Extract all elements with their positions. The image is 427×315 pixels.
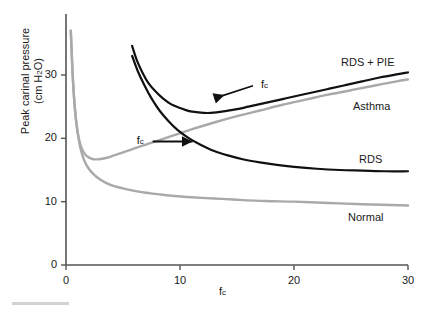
arrow-fc-upper bbox=[214, 86, 253, 99]
x-tick-label: 10 bbox=[165, 274, 195, 286]
x-axis-title: fc bbox=[219, 285, 226, 297]
x-axis-title-subscript: c bbox=[222, 288, 226, 297]
series-label-asthma: Asthma bbox=[353, 100, 390, 112]
annotation-fc-lower-subscript: c bbox=[140, 137, 144, 146]
x-tick-label: 0 bbox=[51, 274, 81, 286]
axis-lines bbox=[61, 14, 408, 270]
y-tick-label: 10 bbox=[35, 195, 57, 207]
y-tick-label: 0 bbox=[35, 258, 57, 270]
series-line-asthma bbox=[71, 31, 408, 160]
y-axis-title-line1: Peak carinal pressure bbox=[19, 1, 32, 161]
series-label-rds-pie: RDS + PIE bbox=[341, 56, 395, 68]
y-tick-label: 20 bbox=[35, 131, 57, 143]
annotation-fc-upper-subscript: c bbox=[264, 81, 268, 90]
annotation-fc-upper: fc bbox=[261, 78, 268, 90]
figure-container: Peak carinal pressure (cm H2O) fc 010203… bbox=[0, 0, 427, 315]
y-tick-label: 30 bbox=[35, 68, 57, 80]
series-label-rds: RDS bbox=[359, 153, 382, 165]
footer-rule bbox=[12, 302, 69, 305]
annotation-fc-lower: fc bbox=[137, 134, 144, 146]
series-label-normal: Normal bbox=[348, 211, 383, 223]
x-tick-label: 20 bbox=[279, 274, 309, 286]
x-tick-label: 30 bbox=[393, 274, 423, 286]
